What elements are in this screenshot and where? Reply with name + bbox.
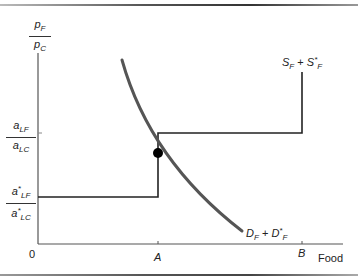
demand-label: DF + D*F bbox=[246, 226, 287, 242]
y-tick-label-home-ratio: aLF aLC bbox=[6, 119, 36, 156]
x-tick-label-b: B bbox=[298, 247, 305, 259]
x-tick-label-a: A bbox=[154, 251, 161, 263]
y-axis-label: pF pC bbox=[29, 18, 51, 55]
supply-curve bbox=[38, 72, 302, 197]
demand-curve bbox=[122, 60, 242, 231]
equilibrium-point bbox=[153, 148, 163, 158]
supply-label: SF + S*F bbox=[282, 55, 322, 71]
y-tick-label-foreign-ratio: a*LF a*LC bbox=[6, 183, 36, 224]
diagram-canvas bbox=[0, 0, 358, 277]
origin-label: 0 bbox=[29, 248, 35, 260]
x-axis-label: Food bbox=[318, 252, 343, 264]
